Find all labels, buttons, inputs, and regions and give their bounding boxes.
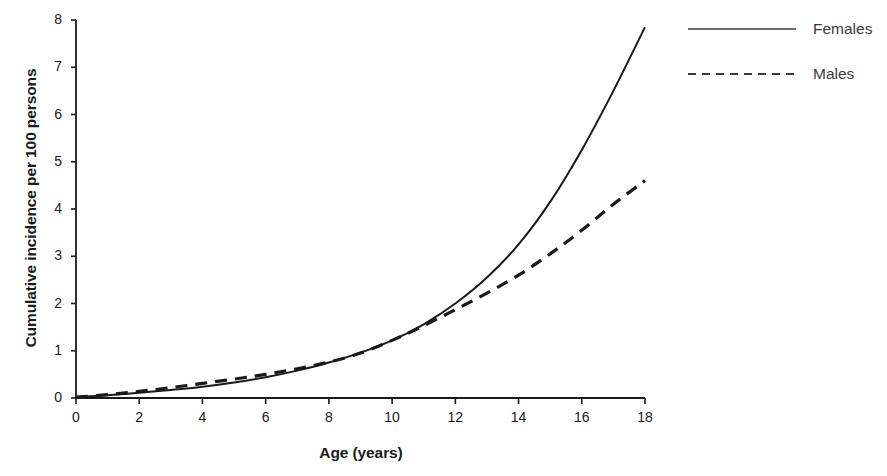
x-tick-label: 4 (187, 409, 217, 425)
y-tick-label: 8 (40, 11, 62, 27)
x-axis-title: Age (years) (76, 444, 646, 462)
x-tick-label: 2 (124, 409, 154, 425)
y-tick-label: 0 (40, 389, 62, 405)
legend-swatch-dashed-line-icon (688, 67, 796, 81)
legend-label-males: Males (813, 65, 854, 83)
legend-swatch-solid-line-icon (688, 22, 796, 36)
chart-figure: Cumulative incidence per 100 persons 012… (0, 0, 887, 476)
x-tick-label: 16 (567, 409, 597, 425)
x-tick-label: 12 (440, 409, 470, 425)
y-tick-label: 6 (40, 106, 62, 122)
y-tick-label: 5 (40, 153, 62, 169)
x-tick-label: 10 (377, 409, 407, 425)
x-tick-label: 18 (630, 409, 660, 425)
x-tick-label: 0 (61, 409, 91, 425)
series-line-males (76, 181, 645, 397)
axis-lines (76, 20, 645, 398)
y-tick-label: 3 (40, 247, 62, 263)
data-series-group (76, 27, 645, 397)
series-line-females (76, 27, 645, 397)
y-tick-label: 4 (40, 200, 62, 216)
x-tick-label: 14 (504, 409, 534, 425)
y-tick-label: 2 (40, 295, 62, 311)
x-tick-label: 8 (314, 409, 344, 425)
y-tick-label: 7 (40, 58, 62, 74)
legend-item-males[interactable]: Males (688, 65, 854, 83)
y-tick-label: 1 (40, 342, 62, 358)
legend-item-females[interactable]: Females (688, 20, 872, 38)
legend-label-females: Females (813, 20, 872, 38)
x-tick-label: 6 (251, 409, 281, 425)
